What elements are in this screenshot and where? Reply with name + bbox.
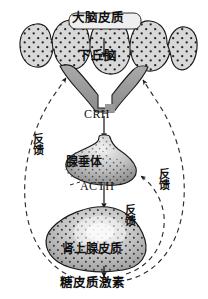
label-cerebral-cortex: 大脑皮质	[72, 12, 124, 25]
label-glucocorticoid: 糖皮质激素	[60, 277, 125, 290]
label-acth: ACTH	[80, 180, 114, 192]
label-anterior-pituitary: 腺垂体	[66, 156, 102, 168]
label-feedback-left: 反馈	[32, 133, 43, 155]
feedback-tick-acth	[70, 182, 80, 185]
label-crh: CRH	[84, 108, 110, 120]
label-feedback-right-inner: 反馈	[124, 204, 135, 226]
label-hypothalamus: 下丘脑	[78, 50, 117, 63]
hpa-axis-diagram: 大脑皮质 下丘脑 CRH 腺垂体 ACTH 肾上腺皮质 糖皮质激素 反馈 反馈 …	[0, 0, 208, 299]
label-feedback-right-outer: 反馈	[158, 168, 169, 190]
label-adrenal-cortex: 肾上腺皮质	[62, 243, 122, 255]
